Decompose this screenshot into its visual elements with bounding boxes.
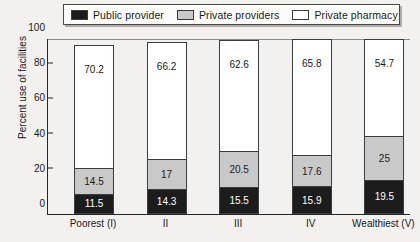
x-axis-label: III: [234, 218, 242, 229]
bar-segment-private-pharmacy: 62.6: [219, 40, 259, 150]
bar-segment-private-providers: 14.5: [74, 168, 114, 194]
bar-segment-private-pharmacy: 54.7: [364, 39, 404, 135]
x-axis-label: IV: [306, 218, 315, 229]
bar-segment-private-pharmacy: 66.2: [147, 42, 187, 159]
bar-segment-private-pharmacy: 70.2: [74, 45, 114, 169]
y-axis-tick: 0: [39, 198, 48, 209]
bar-segment-public-provider: 14.3: [147, 189, 187, 214]
y-axis-tick: 100: [28, 22, 48, 33]
bar-stack: 15.520.562.6: [219, 40, 259, 214]
x-axis-label: Wealthiest (V): [352, 218, 415, 229]
legend-item-private-providers: Private providers: [177, 9, 279, 21]
y-axis-tick-label: 80: [34, 57, 45, 68]
bar-segment-private-pharmacy: 65.8: [292, 39, 332, 155]
y-axis-tick-label: 60: [34, 92, 45, 103]
bar-segment-private-providers: 17: [147, 159, 187, 189]
legend-label-private-pharmacy: Private pharmacy: [314, 9, 397, 21]
y-axis-tick: 60: [34, 92, 48, 103]
stacked-bar-chart: Public provider Private providers Privat…: [0, 0, 420, 242]
x-axis-label: Poorest (I): [70, 218, 117, 229]
chart-legend: Public provider Private providers Privat…: [63, 4, 400, 25]
y-axis-tick-label: 0: [39, 198, 45, 209]
y-axis-tick-label: 20: [34, 162, 45, 173]
bar-stack: 14.31766.2: [147, 42, 187, 214]
gray-swatch-icon: [177, 10, 194, 20]
bar-stack: 19.52554.7: [364, 39, 404, 214]
y-axis-tick: 40: [34, 127, 48, 138]
white-swatch-icon: [292, 10, 309, 20]
y-axis-tick-label: 100: [28, 22, 45, 33]
bar-segment-private-providers: 25: [364, 136, 404, 180]
y-axis-tick: 20: [34, 162, 48, 173]
legend-label-private-providers: Private providers: [199, 9, 279, 21]
bar-segment-private-providers: 20.5: [219, 151, 259, 187]
bar-stack: 11.514.570.2: [74, 45, 114, 214]
bar-segment-public-provider: 15.9: [292, 186, 332, 214]
bar-segment-public-provider: 11.5: [74, 194, 114, 214]
bar-segment-private-providers: 17.6: [292, 155, 332, 186]
bar-group: 11.514.570.214.31766.215.520.562.615.917…: [48, 39, 410, 214]
x-axis-labels: Poorest (I)IIIIIIVWealthiest (V): [47, 218, 410, 238]
bar-segment-public-provider: 19.5: [364, 180, 404, 214]
legend-label-public-provider: Public provider: [93, 9, 164, 21]
bar-stack: 15.917.665.8: [292, 39, 332, 214]
y-axis-tick-label: 40: [34, 127, 45, 138]
y-axis-title: Percent use of facilities: [17, 3, 28, 173]
black-swatch-icon: [71, 10, 88, 20]
y-axis-tick: 80: [34, 57, 48, 68]
plot-area: 020406080100 11.514.570.214.31766.215.52…: [47, 39, 410, 215]
x-axis-label: II: [163, 218, 169, 229]
bar-segment-public-provider: 15.5: [219, 187, 259, 214]
legend-item-private-pharmacy: Private pharmacy: [292, 9, 397, 21]
legend-item-public-provider: Public provider: [71, 9, 164, 21]
